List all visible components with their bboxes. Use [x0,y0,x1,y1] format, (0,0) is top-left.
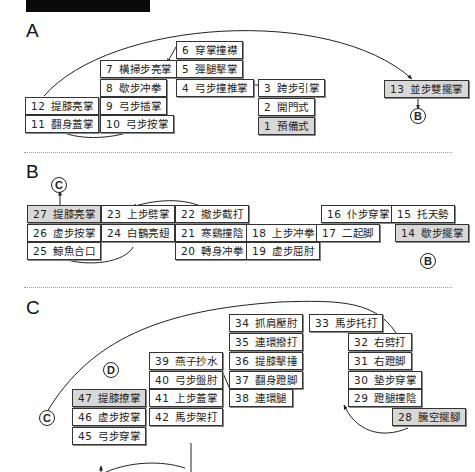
step-box-4: 4弓步撞推掌 [176,79,254,97]
connector-b-in: B [420,253,436,269]
step-box-16: 16仆步穿掌 [321,205,395,223]
step-box-18: 18上步冲拳 [246,224,320,242]
step-box-25: 25鯨魚合口 [27,242,101,260]
step-box-36: 36提膝擊捶 [229,352,303,370]
step-box-39: 39燕子抄水 [149,352,223,370]
step-box-3: 3跨步引掌 [258,79,325,97]
step-box-5: 5彈腿擊掌 [176,60,243,78]
connector-d-out: D [103,362,119,378]
step-box-2: 2開門式 [258,98,315,116]
step-box-17: 17二起脚 [316,224,380,242]
step-box-10: 10弓步按掌 [100,115,174,133]
step-box-12: 12提膝亮掌 [25,97,99,115]
step-box-7: 7橫掃步亮掌 [100,60,178,78]
step-box-8: 8歇步冲拳 [100,79,167,97]
step-box-22: 22撤步截打 [175,205,249,223]
section-label-c: C [26,297,40,319]
step-box-29: 29蹬腿撞陰 [348,389,422,407]
step-box-41: 41上步蓋掌 [149,389,223,407]
step-box-9: 9弓步插掌 [100,97,167,115]
section-divider [24,287,452,288]
step-box-27: 27提膝亮掌 [27,205,101,223]
step-box-45: 45弓步穿掌 [72,427,146,445]
step-box-13: 13並步雙擺掌 [384,80,469,98]
connector-b-out: B [410,108,426,124]
connector-c-in: C [39,410,55,426]
step-box-33: 33馬步托打 [309,314,383,332]
step-box-14: 14歇步擺掌 [395,224,469,242]
step-box-47: 47提膝撩掌 [72,389,146,407]
step-box-40: 40弓步盤肘 [149,371,223,389]
step-box-31: 31右蹬脚 [348,352,412,370]
step-box-32: 32右劈打 [348,333,412,351]
step-box-42: 42馬步架打 [149,408,223,426]
step-box-28: 28騰空擺腳 [392,408,466,426]
section-label-b: B [26,161,39,183]
step-box-15: 15托天勢 [391,205,455,223]
section-label-a: A [26,20,39,42]
step-box-35: 35連環撥打 [229,333,303,351]
step-box-38: 38連環腿 [229,389,293,407]
step-box-21: 21寒鷄撞陰 [175,224,249,242]
step-box-37: 37翻身蹬脚 [229,371,303,389]
step-box-34: 34抓肩壓肘 [229,314,303,332]
step-box-19: 19虚步屈肘 [246,242,320,260]
step-box-1: 1預備式 [258,117,315,135]
connector-c-out: C [51,177,67,193]
step-box-23: 23上步劈掌 [101,205,175,223]
step-box-11: 11翻身蓋掌 [25,115,99,133]
step-box-6: 6穿掌撞襟 [176,41,243,59]
step-box-30: 30墊步穿掌 [348,371,422,389]
step-box-24: 24白鶴亮翅 [101,224,175,242]
section-divider [24,152,452,153]
step-box-26: 26虚步按掌 [27,224,101,242]
step-box-46: 46虚步按掌 [72,408,146,426]
step-box-20: 20轉身冲拳 [175,242,249,260]
